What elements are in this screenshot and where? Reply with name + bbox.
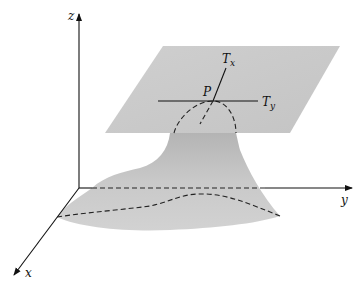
svg-text:x: x [230, 58, 235, 68]
surface [57, 133, 280, 230]
y-axis-label: y [340, 193, 348, 207]
tangent-plane-diagram: z y x P T x T y [0, 0, 363, 288]
x-axis [14, 188, 79, 275]
x-axis-label: x [25, 266, 32, 280]
z-axis-label: z [67, 9, 75, 23]
point-p-label: P [202, 85, 212, 99]
svg-text:y: y [269, 101, 276, 111]
